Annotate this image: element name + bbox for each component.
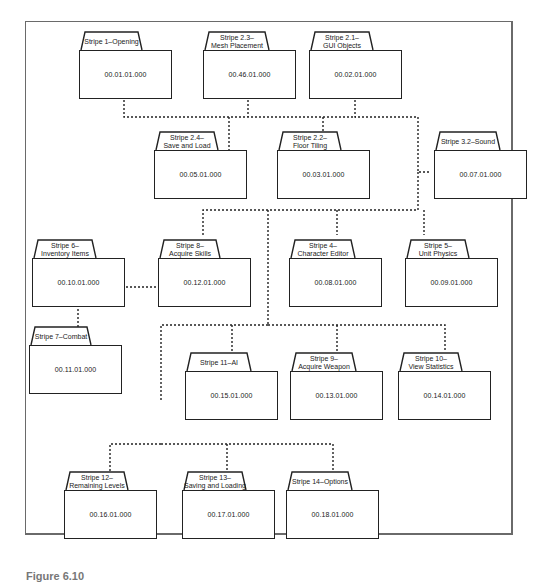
package-tab: Stripe 12– Remaining Levels	[66, 472, 128, 490]
package-code: 00.01.01.000	[79, 50, 172, 99]
package-label: Stripe 10– View Statistics	[409, 355, 454, 370]
package-label: Stripe 13– Saving and Loading	[184, 474, 246, 489]
package-code: 00.05.01.000	[154, 150, 247, 199]
package-label: Stripe 3.2–Sound	[441, 138, 495, 146]
package-code: 00.11.01.000	[29, 345, 122, 394]
package-label: Stripe 14–Options	[292, 478, 348, 486]
package-tab: Stripe 9– Acquire Weapon	[292, 353, 356, 371]
package-tab: Stripe 6– Inventory Items	[34, 240, 96, 258]
package-tab: Stripe 5– Unit Physics	[407, 240, 469, 258]
package-code: 00.12.01.000	[158, 258, 251, 307]
package-label: Stripe 2.2– Floor Tiling	[293, 134, 327, 149]
package-code: 00.17.01.000	[182, 490, 275, 539]
package-code: 00.13.01.000	[290, 371, 383, 420]
package-tab: Stripe 7–Combat	[31, 327, 91, 345]
package-label: Stripe 7–Combat	[35, 333, 88, 341]
package-tab: Stripe 8– Acquire Skills	[160, 240, 220, 258]
package-tab: Stripe 13– Saving and Loading	[184, 472, 246, 490]
package-tab: Stripe 1–Opening	[81, 32, 142, 50]
package-tab: Stripe 2.1– GUI Objects	[311, 32, 373, 50]
package-label: Stripe 2.3– Mesh Placement	[211, 34, 263, 49]
package-code: 00.08.01.000	[289, 258, 382, 307]
package-code: 00.10.01.000	[32, 258, 125, 307]
package-tab: Stripe 11–AI	[187, 353, 251, 371]
package-tab: Stripe 10– View Statistics	[400, 353, 462, 371]
package-tab: Stripe 14–Options	[288, 472, 352, 490]
package-tab: Stripe 2.2– Floor Tiling	[279, 132, 341, 150]
package-label: Stripe 9– Acquire Weapon	[298, 355, 350, 370]
package-label: Stripe 8– Acquire Skills	[169, 242, 211, 257]
package-label: Stripe 4– Character Editor	[298, 242, 349, 257]
package-label: Stripe 2.1– GUI Objects	[323, 34, 361, 49]
package-code: 00.16.01.000	[64, 490, 157, 539]
package-code: 00.03.01.000	[277, 150, 370, 199]
package-tab: Stripe 2.3– Mesh Placement	[205, 32, 269, 50]
package-code: 00.46.01.000	[203, 50, 296, 99]
package-label: Stripe 11–AI	[200, 359, 238, 367]
package-code: 00.18.01.000	[286, 490, 379, 539]
package-label: Stripe 5– Unit Physics	[419, 242, 458, 257]
package-code: 00.15.01.000	[185, 371, 278, 420]
package-label: Stripe 2.4– Save and Load	[163, 134, 210, 149]
package-label: Stripe 1–Opening	[84, 38, 138, 46]
package-tab: Stripe 2.4– Save and Load	[156, 132, 218, 150]
package-label: Stripe 12– Remaining Levels	[69, 474, 125, 489]
package-code: 00.02.01.000	[309, 50, 402, 99]
package-code: 00.07.01.000	[434, 150, 527, 199]
package-code: 00.14.01.000	[398, 371, 491, 420]
figure-caption: Figure 6.10	[26, 570, 84, 582]
package-tab: Stripe 4– Character Editor	[291, 240, 355, 258]
package-tab: Stripe 3.2–Sound	[436, 132, 500, 150]
package-code: 00.09.01.000	[405, 258, 498, 307]
package-label: Stripe 6– Inventory Items	[41, 242, 89, 257]
